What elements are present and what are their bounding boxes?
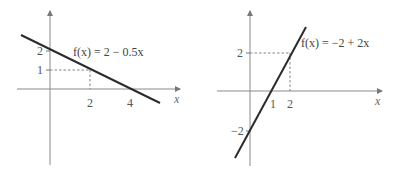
left-x-tick-label-2: 2 [87,96,93,110]
right-graph: 2 −2 1 2 x f(x) = −2 + 2x [217,11,382,166]
left-y-tick-label-1: 1 [37,63,43,77]
right-x-tick-label-1: 1 [270,97,276,111]
left-x-tick-label-4: 4 [127,96,133,110]
left-equation-label: f(x) = 2 − 0.5x [73,45,144,59]
right-equation-label: f(x) = −2 + 2x [301,36,369,50]
right-y-tick-label-neg2: −2 [231,124,244,138]
right-y-tick-label-2: 2 [237,46,243,60]
right-function-line [235,27,306,158]
left-x-axis-label: x [173,92,180,106]
right-x-axis-label: x [374,94,381,108]
right-x-tick-label-2: 2 [287,97,293,111]
left-y-tick-label-2: 2 [37,44,43,58]
left-graph: 2 1 2 4 x f(x) = 2 − 0.5x [17,11,180,165]
figure: 2 1 2 4 x f(x) = 2 − 0.5x 2 −2 1 2 x f(x… [0,0,394,177]
